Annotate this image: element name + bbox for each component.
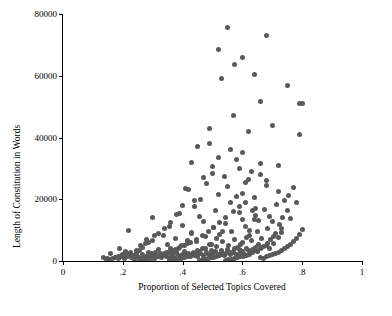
data-point (279, 226, 284, 231)
data-point (192, 204, 197, 209)
x-tick-label: .4 (179, 267, 186, 277)
data-point (267, 246, 272, 251)
data-point (262, 207, 267, 212)
data-point (180, 223, 185, 228)
data-point (240, 150, 245, 155)
data-point (170, 248, 175, 253)
data-point (274, 202, 279, 207)
data-point (223, 221, 228, 226)
data-point (183, 186, 188, 191)
y-tick-label: 80000 (35, 9, 58, 19)
data-point (173, 236, 178, 241)
data-point (250, 208, 255, 213)
data-point (164, 250, 169, 255)
data-point (207, 126, 212, 131)
x-tick-label: .8 (299, 267, 306, 277)
data-point (232, 62, 237, 67)
data-point (264, 183, 269, 188)
data-point (276, 189, 281, 194)
data-point (234, 157, 239, 162)
data-point (210, 164, 215, 169)
data-point (197, 214, 202, 219)
x-tick-label: 1 (360, 267, 365, 277)
data-point (198, 197, 203, 202)
data-point (209, 242, 214, 247)
data-point (285, 208, 290, 213)
data-point (203, 246, 208, 251)
data-point (167, 258, 172, 261)
data-point (228, 200, 233, 205)
data-point (259, 236, 264, 241)
data-point (238, 242, 243, 247)
data-point (282, 198, 287, 203)
data-point (276, 163, 281, 168)
data-point (211, 225, 216, 230)
data-point (234, 194, 239, 199)
data-point (158, 251, 163, 256)
data-point (201, 219, 206, 224)
data-point (237, 204, 242, 209)
data-point (297, 232, 302, 237)
data-point (220, 239, 225, 244)
data-point (194, 237, 199, 242)
scatter-chart-figure: 020000400006000080000 0.2.4.6.81 Length … (0, 0, 392, 316)
data-point (213, 208, 218, 213)
y-tick-label: 20000 (35, 194, 58, 204)
data-point (177, 211, 182, 216)
data-point (259, 245, 264, 250)
data-point (247, 228, 252, 233)
data-point (252, 195, 257, 200)
data-point (265, 226, 270, 231)
x-tick-label: .6 (239, 267, 246, 277)
data-point (189, 231, 194, 236)
data-point (240, 55, 245, 60)
data-point (240, 191, 245, 196)
data-point (195, 144, 200, 149)
data-point (117, 246, 122, 251)
data-point (217, 220, 222, 225)
x-tick-mark (362, 261, 363, 265)
data-point (104, 257, 109, 261)
data-point (231, 209, 236, 214)
data-point (223, 215, 228, 220)
data-point (279, 230, 284, 235)
data-point (286, 193, 291, 198)
data-point (214, 236, 219, 241)
x-tick-label: 0 (61, 267, 66, 277)
data-point (243, 200, 248, 205)
data-point (140, 245, 145, 250)
data-point (229, 229, 234, 234)
data-point (232, 237, 237, 242)
data-point (134, 248, 139, 253)
data-point (216, 155, 221, 160)
y-tick-label: 60000 (35, 71, 58, 81)
data-point (240, 217, 245, 222)
data-point (256, 218, 261, 223)
data-point (294, 200, 299, 205)
data-point (207, 141, 212, 146)
data-point (225, 25, 230, 30)
data-point (167, 224, 172, 229)
data-point (253, 213, 258, 218)
x-tick-mark (302, 261, 303, 265)
data-point (216, 192, 221, 197)
data-point (265, 241, 270, 246)
x-tick-mark (183, 261, 184, 265)
data-point (258, 172, 263, 177)
data-point (249, 238, 254, 243)
data-point (206, 229, 211, 234)
data-point (276, 235, 281, 240)
data-point (264, 178, 269, 183)
data-point (225, 184, 230, 189)
data-point (271, 241, 276, 246)
data-point (189, 160, 194, 165)
data-point (246, 129, 251, 134)
data-point (201, 175, 206, 180)
x-tick-mark (123, 261, 124, 265)
data-point (243, 180, 248, 185)
data-point (270, 219, 275, 224)
data-point (161, 233, 166, 238)
data-point (270, 123, 275, 128)
data-point (222, 174, 227, 179)
data-point (126, 228, 131, 233)
